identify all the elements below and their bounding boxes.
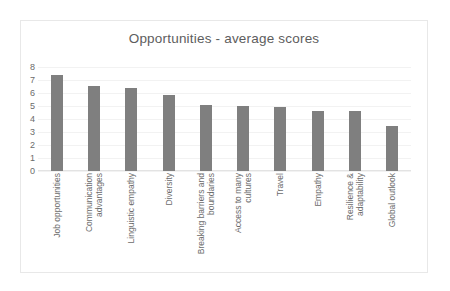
bar[interactable] xyxy=(237,106,249,171)
bar-slot xyxy=(262,67,299,171)
x-axis-category-label-line: Access to many xyxy=(233,173,243,233)
x-label-slot: Diversity xyxy=(150,173,187,269)
x-axis-category-label-line: Empathy xyxy=(313,173,323,207)
x-label-slot: Breaking barriers andboundaries xyxy=(187,173,224,269)
x-axis-category-label: Breaking barriers andboundaries xyxy=(196,173,216,254)
bar-slot xyxy=(374,67,411,171)
x-label-slot: Empathy xyxy=(299,173,336,269)
x-axis-category-label-line: Travel xyxy=(275,173,285,196)
bar-slot xyxy=(299,67,336,171)
bar-series xyxy=(38,67,411,171)
gridline xyxy=(38,171,411,172)
x-label-slot: Resilience &adaptability xyxy=(336,173,373,269)
bar-slot xyxy=(225,67,262,171)
x-label-slot: Communicationadvantages xyxy=(75,173,112,269)
x-axis-category-label-line: Global outlook xyxy=(387,173,397,227)
bar-slot xyxy=(150,67,187,171)
x-axis-category-label-line: Resilience & xyxy=(345,173,355,220)
x-axis-category-label-line: Job opportunities xyxy=(52,173,62,238)
x-axis-category-label: Linguistic empathy xyxy=(126,173,136,243)
bar[interactable] xyxy=(125,88,137,171)
x-axis-category-label: Resilience &adaptability xyxy=(345,173,365,220)
x-axis-category-label-line: Diversity xyxy=(164,173,174,206)
bar[interactable] xyxy=(312,111,324,171)
bar[interactable] xyxy=(51,75,63,171)
bar[interactable] xyxy=(386,126,398,172)
y-axis-tick: 8 xyxy=(19,63,35,72)
bar[interactable] xyxy=(274,107,286,171)
bar-slot xyxy=(113,67,150,171)
y-axis-tick: 6 xyxy=(19,89,35,98)
bar[interactable] xyxy=(349,111,361,171)
x-axis-category-label-line: advantages xyxy=(94,173,104,232)
x-axis-category-label-line: Communication xyxy=(84,173,94,232)
x-axis-category-label-line: cultures xyxy=(243,173,253,233)
x-axis-category-label: Empathy xyxy=(313,173,323,207)
y-axis-tick: 7 xyxy=(19,76,35,85)
x-axis-category-label: Global outlook xyxy=(387,173,397,227)
y-axis-tick: 1 xyxy=(19,154,35,163)
bar-slot xyxy=(187,67,224,171)
x-axis-category-label-line: boundaries xyxy=(206,173,216,254)
plot-area: 876543210 xyxy=(38,67,411,171)
y-axis-tick: 0 xyxy=(19,167,35,176)
x-label-slot: Linguistic empathy xyxy=(113,173,150,269)
chart-container: Opportunities - average scores 876543210… xyxy=(20,20,428,273)
bar[interactable] xyxy=(163,95,175,171)
x-axis-category-label: Communicationadvantages xyxy=(84,173,104,232)
x-axis-category-label-line: Breaking barriers and xyxy=(196,173,206,254)
x-axis-category-labels: Job opportunitiesCommunicationadvantages… xyxy=(38,173,411,269)
chart-title: Opportunities - average scores xyxy=(21,31,427,46)
x-axis-category-label-line: adaptability xyxy=(355,173,365,220)
x-label-slot: Job opportunities xyxy=(38,173,75,269)
bar-slot xyxy=(336,67,373,171)
x-axis-category-label-line: Linguistic empathy xyxy=(126,173,136,243)
y-axis-tick: 3 xyxy=(19,128,35,137)
bar[interactable] xyxy=(88,86,100,171)
x-axis-category-label: Job opportunities xyxy=(52,173,62,238)
bar-slot xyxy=(38,67,75,171)
y-axis-tick: 2 xyxy=(19,141,35,150)
y-axis-tick-labels: 876543210 xyxy=(19,60,35,178)
bar[interactable] xyxy=(200,105,212,171)
y-axis-tick: 4 xyxy=(19,115,35,124)
y-axis-tick: 5 xyxy=(19,102,35,111)
x-axis-category-label: Travel xyxy=(275,173,285,196)
x-label-slot: Access to manycultures xyxy=(225,173,262,269)
bar-slot xyxy=(75,67,112,171)
x-label-slot: Travel xyxy=(262,173,299,269)
x-label-slot: Global outlook xyxy=(374,173,411,269)
x-axis-category-label: Access to manycultures xyxy=(233,173,253,233)
x-axis-category-label: Diversity xyxy=(164,173,174,206)
